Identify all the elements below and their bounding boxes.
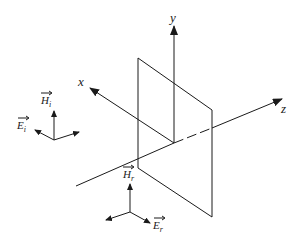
y-axis-label: y (168, 10, 176, 25)
reflected-e-label: Er (152, 219, 164, 234)
incident-e-vector (35, 130, 54, 140)
boundary-plane (138, 58, 212, 217)
reflected-field-triad: Hr Er (106, 165, 165, 234)
diagram-canvas: z y x Hi Ei Hr Er (0, 0, 301, 248)
incident-propagation-vector (54, 132, 79, 140)
x-axis (90, 88, 174, 143)
reflected-propagation-vector (106, 212, 130, 220)
z-axis-label: z (280, 101, 286, 116)
reflected-e-vector (130, 212, 150, 223)
z-axis (212, 99, 282, 128)
incident-h-label: Hi (40, 94, 51, 109)
x-axis-label: x (77, 74, 84, 89)
incident-field-triad: Hi Ei (16, 91, 79, 140)
z-axis-hidden-segment (174, 128, 212, 143)
reflected-h-label: Hr (122, 168, 135, 183)
incident-e-label: Ei (16, 119, 26, 134)
